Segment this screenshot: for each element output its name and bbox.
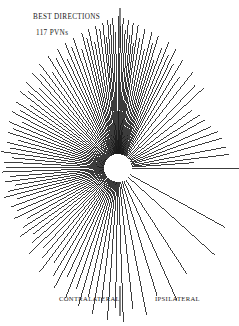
ray-line — [6, 167, 104, 168]
page-title: BEST DIRECTIONS — [33, 14, 100, 21]
figure-canvas: BEST DIRECTIONS 117 PVNs CONTRALATERAL I… — [0, 0, 239, 326]
ray-line — [13, 129, 105, 163]
unit-count-label: 117 PVNs — [36, 30, 68, 37]
ray-line — [125, 64, 174, 156]
axis-label-contralateral: CONTRALATERAL — [59, 296, 120, 303]
ray-line — [122, 60, 154, 155]
ray-line — [8, 171, 104, 191]
ray-line — [119, 182, 132, 309]
ray-line — [130, 175, 224, 227]
ray-group — [1, 16, 239, 322]
axis-label-ipsilateral: IPSILATERAL — [155, 296, 200, 303]
ray-line — [126, 180, 187, 274]
polar-ray-plot — [0, 0, 239, 326]
ray-line — [17, 172, 105, 199]
ray-line — [42, 179, 109, 259]
ray-line — [40, 88, 109, 158]
ray-line — [124, 49, 176, 155]
